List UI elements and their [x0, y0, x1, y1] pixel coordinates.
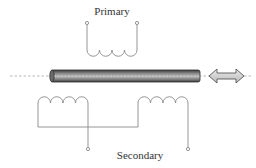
- secondary-label: Secondary: [117, 149, 164, 161]
- movement-arrow-icon: [209, 69, 244, 83]
- secondary-terminal-right: [186, 147, 189, 150]
- secondary-coil-right: [138, 97, 190, 151]
- secondary-terminal-left: [86, 147, 89, 150]
- primary-terminal-right: [135, 21, 138, 24]
- secondary-coil-left: [38, 97, 90, 151]
- primary-label: Primary: [94, 5, 130, 17]
- core-rod: [50, 70, 200, 82]
- primary-coil: [85, 21, 138, 56]
- primary-terminal-left: [85, 21, 88, 24]
- lvdt-diagram: Primary Secondary: [0, 0, 256, 168]
